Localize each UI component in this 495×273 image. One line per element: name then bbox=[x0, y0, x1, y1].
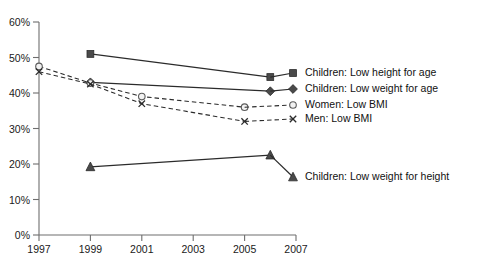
series-line-1 bbox=[90, 82, 270, 91]
series-children-low-height-for-age bbox=[87, 51, 274, 81]
series-label-men-low-bmi: Men: Low BMI bbox=[305, 112, 372, 124]
marker-square-0-0 bbox=[87, 51, 94, 58]
series-label-children-low-weight-for-age: Children: Low weight for age bbox=[305, 82, 438, 94]
leader-0 bbox=[270, 70, 296, 77]
y-axis-ticks: 60% 50% 40% 30% 20% 10% 0% bbox=[9, 16, 39, 241]
y-tick-label-50: 50% bbox=[9, 52, 30, 64]
marker-circle-legend-2 bbox=[290, 102, 297, 109]
x-tick-label-2007: 2007 bbox=[284, 243, 308, 255]
series-line-4 bbox=[90, 155, 270, 167]
series-label-children-low-weight-for-height: Children: Low weight for height bbox=[305, 170, 449, 182]
series-labels-group: Children: Low height for age Children: L… bbox=[305, 66, 449, 182]
series-label-children-low-height-for-age: Children: Low height for age bbox=[305, 66, 436, 78]
y-tick-label-10: 10% bbox=[9, 194, 30, 206]
x-tick-label-1997: 1997 bbox=[27, 243, 51, 255]
y-tick-label-0: 0% bbox=[15, 229, 30, 241]
leader-4 bbox=[270, 155, 297, 181]
marker-cross-3-2 bbox=[139, 100, 145, 106]
series-line-2 bbox=[39, 66, 245, 107]
axes-group bbox=[39, 22, 296, 235]
x-tick-label-2005: 2005 bbox=[233, 243, 257, 255]
data-series-layer bbox=[36, 51, 298, 181]
marker-square-legend-0 bbox=[290, 70, 297, 77]
y-tick-label-20: 20% bbox=[9, 158, 30, 170]
leader-2 bbox=[245, 102, 297, 109]
series-children-low-weight-for-height bbox=[86, 150, 275, 170]
x-tick-label-2003: 2003 bbox=[182, 243, 206, 255]
leader-line-3 bbox=[245, 119, 293, 121]
marker-diamond-legend-1 bbox=[289, 85, 298, 94]
leader-3 bbox=[245, 116, 297, 122]
x-tick-label-2001: 2001 bbox=[130, 243, 154, 255]
x-axis-ticks: 1997 1999 2001 2003 2005 2007 bbox=[27, 235, 308, 255]
series-label-women-low-bmi: Women: Low BMI bbox=[305, 98, 388, 110]
y-tick-label-30: 30% bbox=[9, 123, 30, 135]
y-tick-label-60: 60% bbox=[9, 16, 30, 28]
nutrition-trends-line-chart: 60% 50% 40% 30% 20% 10% 0% 1997 1999 200… bbox=[0, 0, 495, 273]
leader-line-2 bbox=[245, 105, 293, 107]
marker-circle-2-2 bbox=[139, 93, 146, 100]
leader-line-4 bbox=[270, 155, 293, 177]
y-tick-label-40: 40% bbox=[9, 87, 30, 99]
x-tick-label-1999: 1999 bbox=[79, 243, 103, 255]
figure-container: 60% 50% 40% 30% 20% 10% 0% 1997 1999 200… bbox=[0, 0, 495, 273]
series-line-0 bbox=[90, 54, 270, 77]
